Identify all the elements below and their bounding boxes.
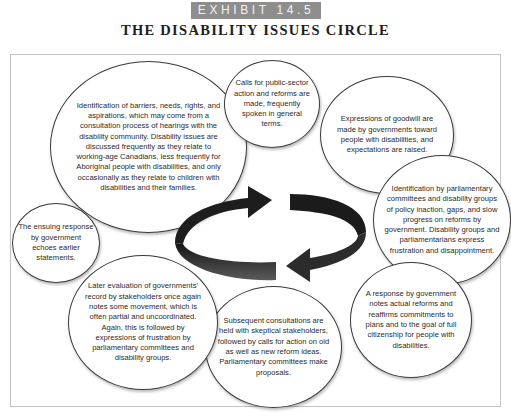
stage-text: Subsequent consultations are held with s… [217, 316, 330, 378]
stage-text: Calls for public-sector action and refor… [233, 78, 311, 129]
stage-subsequent-consultations: Subsequent consultations are held with s… [205, 286, 342, 408]
circular-arrows-icon [170, 178, 370, 288]
figure-title: THE DISABILITY ISSUES CIRCLE [0, 22, 511, 39]
stage-text: Expressions of goodwill are made by gove… [333, 114, 441, 155]
stage-text: Identification by parliamentary committe… [384, 184, 500, 256]
stage-ensuing-response: The ensuing response by government echoe… [12, 203, 100, 283]
exhibit-label: EXHIBIT 14.5 [191, 2, 321, 19]
stage-text: A response by government notes actual re… [360, 289, 462, 351]
stage-text: Later evaluation of governments' record … [83, 281, 203, 363]
stage-text: The ensuing response by government echoe… [18, 222, 94, 263]
stage-calls-for-action: Calls for public-sector action and refor… [224, 60, 320, 148]
